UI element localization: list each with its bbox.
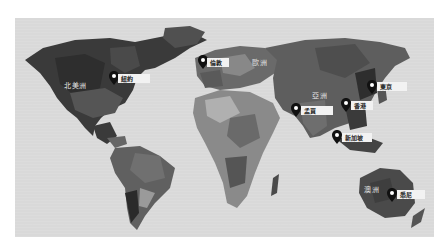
region-label-australia: 澳洲 bbox=[364, 184, 379, 194]
region-label-north-america: 北美洲 bbox=[64, 80, 87, 90]
city-label-tokyo: 東京 bbox=[377, 82, 407, 91]
city-label-new-york: 紐約 bbox=[118, 74, 150, 83]
city-label-mumbai: 孟買 bbox=[301, 106, 333, 115]
city-label-singapore: 新加坡 bbox=[342, 133, 372, 142]
city-label-sydney: 悉尼 bbox=[397, 190, 425, 199]
south-america-landmass bbox=[110, 146, 175, 230]
region-label-europe: 歐洲 bbox=[252, 57, 267, 67]
city-label-hong-kong: 香港 bbox=[351, 101, 373, 110]
world-map[interactable]: 北美洲 歐洲 亞洲 澳洲 紐約 倫敦 東京 孟買 香港 新加坡 悉尼 bbox=[15, 18, 434, 237]
africa-landmass bbox=[193, 90, 280, 208]
city-label-london: 倫敦 bbox=[207, 58, 229, 67]
region-label-asia: 亞洲 bbox=[312, 90, 327, 100]
north-america-landmass bbox=[25, 26, 207, 148]
continents bbox=[15, 18, 434, 237]
